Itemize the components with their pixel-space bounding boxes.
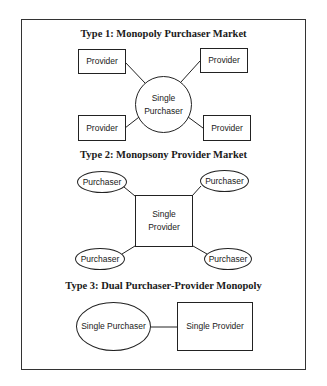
type1-provider-top-left: Provider bbox=[78, 49, 126, 74]
type1-provider-top-right: Provider bbox=[200, 48, 248, 73]
node-label: Purchaser bbox=[205, 175, 244, 188]
market-types-diagram: Type 1: Monopoly Purchaser Market Provid… bbox=[0, 0, 327, 386]
type3-title: Type 3: Dual Purchaser-Provider Monopoly bbox=[21, 280, 306, 291]
connector-t2-top-left bbox=[124, 187, 135, 196]
connector-t1-top-right bbox=[181, 61, 200, 82]
type3-single-provider: Single Provider bbox=[177, 302, 253, 351]
node-label-line2: Provider bbox=[148, 221, 180, 234]
connector-t1-top-left bbox=[125, 62, 145, 83]
node-label-line1: Single bbox=[152, 208, 176, 221]
node-label: Provider bbox=[211, 122, 243, 135]
type2-purchaser-bottom-right: Purchaser bbox=[204, 248, 252, 270]
type3-single-purchaser: Single Purchaser bbox=[76, 302, 151, 351]
type1-provider-bottom-right: Provider bbox=[203, 115, 251, 141]
connector-t2-bottom-right bbox=[193, 246, 207, 254]
type2-purchaser-bottom-left: Purchaser bbox=[75, 248, 125, 270]
node-label-line1: Single bbox=[152, 92, 176, 105]
connector-t2-top-right bbox=[192, 186, 201, 196]
connector-t2-bottom-left bbox=[122, 246, 135, 254]
type1-title: Type 1: Monopoly Purchaser Market bbox=[21, 28, 306, 39]
connector-lines bbox=[0, 0, 327, 386]
node-label: Provider bbox=[86, 122, 118, 135]
type2-purchaser-top-left: Purchaser bbox=[77, 171, 127, 193]
node-label-line2: Purchaser bbox=[144, 105, 183, 118]
type1-provider-bottom-left: Provider bbox=[78, 115, 126, 141]
node-label: Provider bbox=[208, 54, 240, 67]
type1-single-purchaser: Single Purchaser bbox=[135, 76, 192, 133]
node-label: Single Provider bbox=[186, 320, 244, 333]
type2-single-provider: Single Provider bbox=[135, 195, 193, 247]
type2-purchaser-top-right: Purchaser bbox=[200, 170, 249, 192]
node-label: Single Purchaser bbox=[81, 320, 146, 333]
node-label: Purchaser bbox=[81, 253, 120, 266]
type2-title: Type 2: Monopsony Provider Market bbox=[21, 149, 306, 160]
node-label: Provider bbox=[86, 55, 118, 68]
node-label: Purchaser bbox=[83, 176, 122, 189]
node-label: Purchaser bbox=[209, 253, 248, 266]
